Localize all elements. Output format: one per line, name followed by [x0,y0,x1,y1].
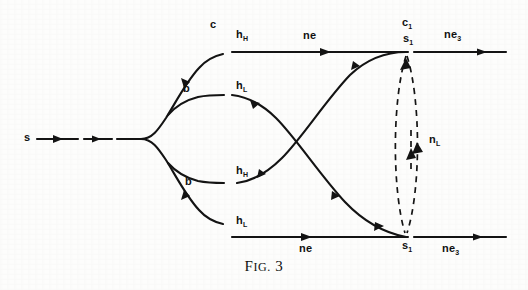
label-c1-right: c1 [402,17,412,30]
figure-3-diagram: --- ) ===== --> [0,0,528,290]
curve-branch-lower-inner [168,163,224,183]
label-h-lower-mid-base: h [236,164,243,176]
arrowhead-top-ne [320,48,331,56]
label-h-lower-mid: hH [236,165,248,178]
label-h-top-base: h [236,28,243,40]
arrowhead-top-right-ne3 [477,49,487,56]
caption-ig: IG. [254,260,271,274]
label-c1-sub: 1 [408,23,412,30]
label-ne3-bottom-sub: 3 [455,249,459,256]
curve-upper-to-bottom-node [232,95,406,237]
label-h-top: hH [236,29,248,42]
label-s1-bottom-sub: 1 [408,246,412,253]
caption-number: 3 [275,258,283,274]
source-arrowhead-1 [53,135,63,143]
label-ne3-top-base: ne [444,28,457,40]
label-h-bottom-base: h [236,214,243,226]
label-h-lower-mid-sub: H [243,171,248,178]
label-ne-top: ne [303,30,316,41]
label-ne3-bottom-base: ne [442,242,455,254]
dashed-curve-right [407,56,418,233]
curve-branch-upper-inner [168,95,224,115]
arrowhead-bottom-right-ne3 [473,234,483,241]
arrowhead-dashed-left-up [400,58,411,70]
figure-caption: FIG. 3 [0,258,528,275]
label-h-upper-mid: hL [236,80,247,93]
label-ne3-top-sub: 3 [457,35,461,42]
label-n-vertical-base: n [429,133,436,145]
label-h-bottom-sub: L [243,221,247,228]
label-n-vertical: nL [429,134,440,147]
arrowhead-bottom-ne [301,233,312,241]
curve-lower-to-top-node [237,52,406,183]
label-h-upper-mid-sub: L [243,86,247,93]
curve-branch-lower-outer [141,139,223,224]
label-n-vertical-sub: L [436,140,440,147]
label-ne-bottom: ne [299,243,312,254]
label-h-top-sub: H [243,35,248,42]
label-h-bottom: hL [236,215,247,228]
label-s1-top: s1 [403,33,413,46]
label-s1-bottom: s1 [402,240,412,253]
arrowhead-cross-up-1 [257,169,266,178]
label-h-upper-mid-base: h [236,79,243,91]
label-ne3-bottom: ne3 [442,243,459,256]
label-branch-lower-b: b [185,176,192,187]
label-s1-top-sub: 1 [409,39,413,46]
label-ne3-top: ne3 [444,29,461,42]
curve-branch-upper-outer [141,54,223,139]
label-c-top: c [210,19,216,30]
dashed-curve-left [395,56,406,233]
arrowhead-dashed-right-up [412,142,423,154]
label-branch-upper-b: b [183,83,190,94]
label-source-s: s [24,132,30,143]
caption-f: F [245,258,254,274]
source-arrowhead-2 [92,136,101,143]
